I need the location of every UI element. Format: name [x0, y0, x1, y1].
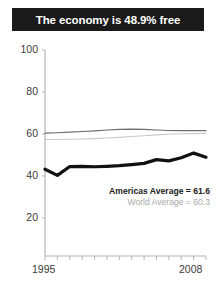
y-axis-tick-60: 60 [12, 127, 38, 139]
chart-legend: Americas Average = 61.6 World Average = … [96, 186, 210, 208]
y-axis-tick-100: 100 [12, 43, 38, 55]
y-axis-tick-20: 20 [12, 211, 38, 223]
y-axis-tick-80: 80 [12, 85, 38, 97]
legend-world-average: World Average = 60.3 [96, 197, 210, 208]
legend-americas-average: Americas Average = 61.6 [96, 186, 210, 197]
x-axis-tick-2008: 2008 [179, 263, 202, 275]
y-axis-tick-40: 40 [12, 169, 38, 181]
axis-layer [42, 50, 206, 260]
economic-freedom-chart: The economy is 48.9% free 10080604020 19… [0, 0, 216, 300]
series-layer [45, 129, 206, 175]
plot-area: 10080604020 19952008 [0, 0, 216, 300]
x-axis-tick-1995: 1995 [32, 263, 55, 275]
